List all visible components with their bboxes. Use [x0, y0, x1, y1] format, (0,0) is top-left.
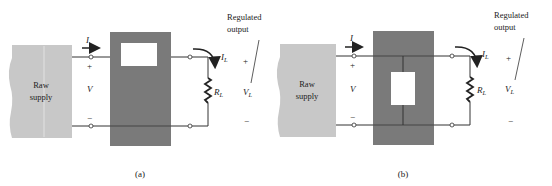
- regulated-output-label: output: [494, 22, 516, 32]
- output-minus-label: −: [508, 116, 513, 126]
- shunt-element: [391, 72, 415, 105]
- regulator-diagram: Raw supply I + V − IL RL + VL − Regulate…: [0, 0, 552, 186]
- input-terminal-plus: [352, 54, 356, 58]
- input-plus-label: +: [87, 61, 92, 71]
- raw-supply-label: supply: [296, 91, 319, 101]
- input-terminal-minus: [89, 124, 93, 128]
- load-current-label: IL: [481, 49, 489, 60]
- input-current-label: I: [85, 35, 90, 45]
- input-voltage-label: V: [350, 84, 357, 94]
- input-minus-label: −: [87, 113, 92, 123]
- panel-b: Raw supply I + V − IL RL + VL − Regulate…: [277, 10, 529, 179]
- regulated-output-label: output: [227, 24, 249, 34]
- input-voltage-label: V: [87, 84, 94, 94]
- output-plus-label: +: [506, 53, 511, 63]
- load-resistor-label: RL: [213, 87, 224, 98]
- regulated-output-label: Regulated: [494, 10, 529, 20]
- load-current-label: IL: [220, 52, 228, 63]
- caption-b: (b): [398, 169, 409, 179]
- raw-supply-label: Raw: [299, 79, 315, 89]
- regulated-output-label: Regulated: [227, 12, 262, 22]
- load-resistor: [205, 78, 211, 103]
- output-voltage-label: VL: [505, 84, 515, 95]
- raw-supply-label: Raw: [33, 80, 49, 90]
- series-element: [121, 43, 157, 66]
- output-minus-label: −: [244, 116, 249, 126]
- load-resistor: [467, 77, 473, 102]
- output-terminal-plus: [188, 55, 192, 59]
- input-terminal-minus: [352, 123, 356, 127]
- raw-supply-label: supply: [30, 92, 53, 102]
- output-terminal-minus: [188, 124, 192, 128]
- input-terminal-plus: [89, 55, 93, 59]
- load-resistor-label: RL: [476, 85, 487, 96]
- output-voltage-label: VL: [243, 87, 253, 98]
- input-minus-label: −: [350, 112, 355, 122]
- caption-a: (a): [135, 169, 145, 179]
- panel-a: Raw supply I + V − IL RL + VL − Regulate…: [9, 12, 262, 179]
- input-current-label: I: [349, 33, 354, 43]
- output-plus-label: +: [243, 56, 248, 66]
- output-terminal-minus: [450, 123, 454, 127]
- input-plus-label: +: [350, 60, 355, 70]
- output-terminal-plus: [450, 54, 454, 58]
